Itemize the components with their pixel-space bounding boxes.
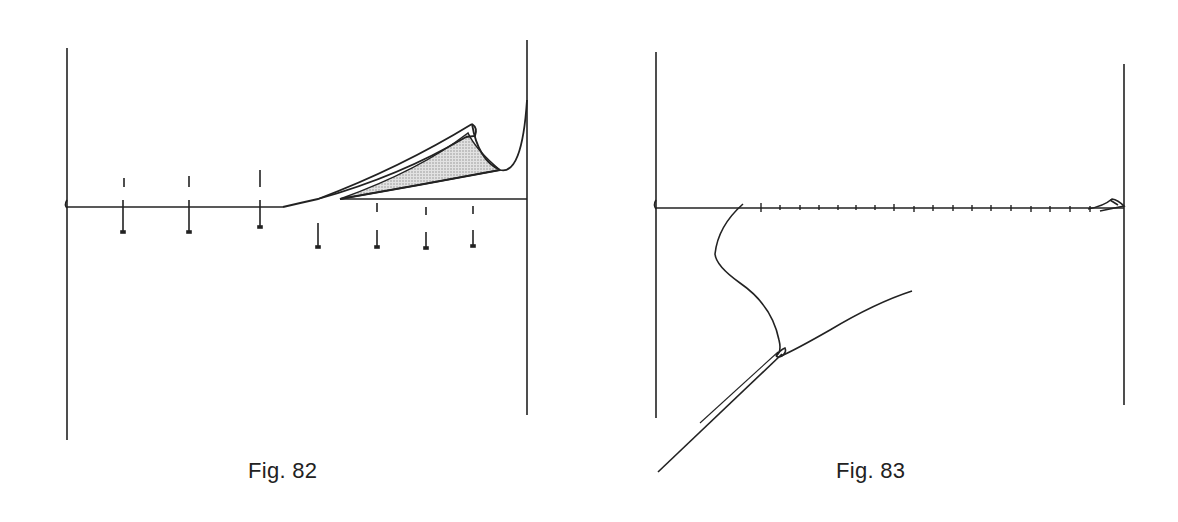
twisting-strand	[715, 204, 780, 356]
figure-82-caption: Fig. 82	[248, 458, 317, 484]
figure-83-drawing	[589, 0, 1178, 522]
rising-branch	[781, 291, 912, 356]
figure-83: Fig. 83	[589, 0, 1178, 522]
figure-82: Fig. 82	[0, 0, 589, 522]
figure-83-caption: Fig. 83	[836, 458, 905, 484]
figure-82-drawing	[0, 0, 589, 522]
diagonal-tail	[658, 354, 782, 472]
